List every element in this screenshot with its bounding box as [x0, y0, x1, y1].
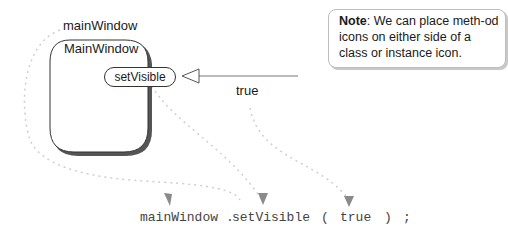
note-box: Note: We can place meth-od icons on eith… — [328, 9, 506, 68]
method-icon: setVisible — [104, 67, 176, 87]
instance-variable-label: mainWindow — [63, 18, 137, 33]
arrowhead-icon — [344, 196, 354, 207]
method-label: setVisible — [114, 70, 165, 84]
argument-arrowhead-icon — [182, 69, 199, 83]
arrowhead-icon — [164, 193, 172, 206]
note-title: Note — [339, 14, 367, 28]
code-token-method: setVisible — [232, 210, 310, 225]
code-token-open-paren: ( — [321, 210, 329, 225]
code-token-semicolon: ; — [403, 210, 411, 225]
arrowhead-icon — [258, 193, 268, 205]
instance-icon — [50, 40, 148, 152]
code-token-argument: true — [340, 210, 371, 225]
argument-label: true — [236, 83, 258, 98]
method-connector — [152, 86, 262, 200]
code-token-close-paren: ) — [384, 210, 392, 225]
code-token-instance: mainWindow — [140, 210, 218, 225]
instance-class-label: MainWindow — [64, 41, 138, 56]
argument-connector — [250, 108, 349, 200]
